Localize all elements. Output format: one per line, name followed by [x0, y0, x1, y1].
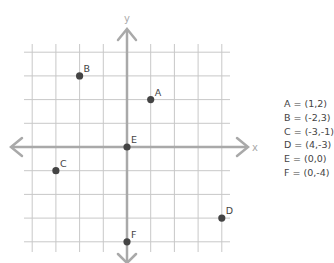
- legend-item: B = (-2,3): [284, 111, 334, 125]
- legend-item: E = (0,0): [284, 152, 334, 166]
- coordinate-plane: xy ABCDEF: [0, 0, 260, 263]
- point-a: [147, 96, 154, 103]
- legend-item: D = (4,-3): [284, 138, 334, 152]
- point-f: [123, 238, 130, 245]
- point-d: [218, 215, 225, 222]
- point-label-f: F: [131, 229, 136, 240]
- coordinates-legend: A = (1,2) B = (-2,3) C = (-3,-1) D = (4,…: [284, 97, 334, 180]
- point-label-b: B: [84, 63, 91, 74]
- x-axis-label: x: [252, 142, 258, 153]
- point-label-c: C: [60, 158, 67, 169]
- legend-item: C = (-3,-1): [284, 125, 334, 139]
- point-e: [123, 143, 130, 150]
- point-label-a: A: [155, 87, 162, 98]
- y-axis-label: y: [124, 13, 130, 24]
- point-c: [52, 167, 59, 174]
- point-b: [76, 72, 83, 79]
- point-label-d: D: [226, 205, 233, 216]
- point-label-e: E: [131, 134, 137, 145]
- legend-item: F = (0,-4): [284, 166, 334, 180]
- legend-item: A = (1,2): [284, 97, 334, 111]
